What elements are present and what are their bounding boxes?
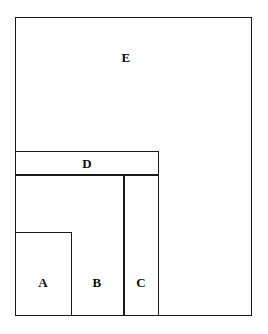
- rectangle-c: [124, 175, 159, 316]
- rectangle-label-b: B: [93, 276, 102, 289]
- rectangle-label-c: C: [136, 276, 146, 289]
- rectangle-label-e: E: [122, 51, 131, 64]
- nested-rectangles-figure: E D B C A: [0, 0, 268, 334]
- rectangle-label-a: A: [38, 276, 48, 289]
- rectangle-label-d: D: [82, 157, 92, 170]
